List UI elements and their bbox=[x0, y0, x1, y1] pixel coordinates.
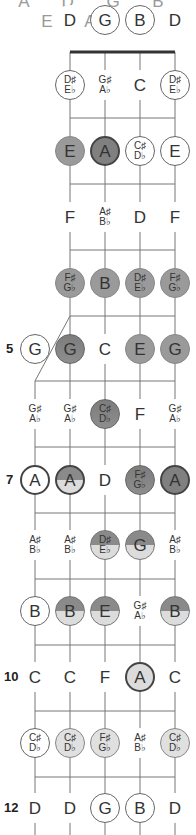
fret-6-note: F bbox=[125, 399, 155, 429]
fret-4-note: D♯E♭ bbox=[125, 268, 155, 298]
fret-10-note: C bbox=[20, 662, 50, 692]
fret-4-note: F♯G♭ bbox=[160, 268, 190, 298]
note-label: A bbox=[99, 143, 110, 160]
note-label: A bbox=[64, 472, 75, 489]
note-label: D bbox=[99, 472, 111, 489]
fret-1-note: D♯E♭ bbox=[55, 70, 85, 100]
note-label: D bbox=[169, 800, 181, 817]
fret-5-note: G bbox=[55, 334, 85, 364]
fret-8-note: D♯E♭ bbox=[90, 530, 120, 560]
fret-9-note: B bbox=[55, 596, 85, 626]
note-label: E bbox=[134, 341, 145, 358]
open-string-note: G bbox=[90, 5, 120, 35]
fret-1-note: C bbox=[125, 70, 155, 100]
fret-7-note: A bbox=[160, 465, 190, 495]
fret-7-note: A bbox=[55, 465, 85, 495]
note-label: B bbox=[64, 603, 75, 620]
note-label: A bbox=[29, 472, 40, 489]
note-label: A♭ bbox=[134, 611, 146, 621]
open-string-note: D bbox=[160, 5, 190, 35]
fret-8-note: A♯B♭ bbox=[55, 530, 85, 560]
note-label: A♭ bbox=[169, 414, 181, 424]
fret-2-note: E bbox=[160, 136, 190, 166]
fret-7-note: A bbox=[20, 465, 50, 495]
fret-4-note: B bbox=[90, 268, 120, 298]
fret-10-note: C bbox=[55, 662, 85, 692]
note-label: G bbox=[98, 12, 111, 29]
note-label: B♭ bbox=[29, 545, 41, 555]
note-label: G bbox=[63, 341, 76, 358]
note-label: E bbox=[99, 603, 110, 620]
note-label: E♭ bbox=[64, 85, 76, 95]
note-label: G bbox=[168, 341, 181, 358]
note-label: B bbox=[134, 12, 145, 29]
fret-2-note: A bbox=[90, 136, 120, 166]
note-label: D bbox=[64, 12, 76, 29]
note-label: A bbox=[134, 669, 145, 686]
note-label: D bbox=[64, 800, 76, 817]
fret-12-note: B bbox=[125, 793, 155, 823]
fret-9-note: E bbox=[90, 596, 120, 626]
note-label: G♭ bbox=[169, 283, 182, 293]
note-label: A♭ bbox=[99, 85, 111, 95]
note-label: D bbox=[29, 800, 41, 817]
fret-3-note: A♯B♭ bbox=[90, 202, 120, 232]
fret-11-note: C♯D♭ bbox=[160, 728, 190, 758]
fret-11-note: F♯G♭ bbox=[90, 728, 120, 758]
fret-8-note: A♯B♭ bbox=[20, 530, 50, 560]
open-string-note: D bbox=[55, 5, 85, 35]
note-label: B♭ bbox=[134, 743, 146, 753]
fret-9-note: G♯A♭ bbox=[125, 596, 155, 626]
note-label: B♭ bbox=[99, 217, 111, 227]
note-label: D♭ bbox=[169, 743, 181, 753]
fret-11-note: C♯D♭ bbox=[55, 728, 85, 758]
fret-10-note: A bbox=[125, 662, 155, 692]
note-label: G♭ bbox=[99, 743, 112, 753]
fret-6-note: G♯A♭ bbox=[55, 399, 85, 429]
fret-2-note: C♯D♭ bbox=[125, 136, 155, 166]
note-label: E bbox=[64, 143, 75, 160]
fret-10-note: C bbox=[160, 662, 190, 692]
fret-6-note: G♯A♭ bbox=[20, 399, 50, 429]
note-label: F bbox=[170, 209, 180, 226]
fret-1-note: G♯A♭ bbox=[90, 70, 120, 100]
fret-3-note: F bbox=[160, 202, 190, 232]
note-label: E♭ bbox=[99, 545, 111, 555]
fret-6-note: C♯D♭ bbox=[90, 399, 120, 429]
fret-2-note: E bbox=[55, 136, 85, 166]
fret-number-label: 10 bbox=[4, 669, 18, 684]
note-label: C bbox=[64, 669, 76, 686]
fret-11-note: C♯D♭ bbox=[20, 728, 50, 758]
note-label: D bbox=[134, 209, 146, 226]
note-label: E bbox=[169, 143, 180, 160]
note-label: A♭ bbox=[29, 414, 41, 424]
fret-1-note: D♯E♭ bbox=[160, 70, 190, 100]
note-label: C bbox=[99, 341, 111, 358]
note-label: A bbox=[169, 472, 180, 489]
note-label: G♭ bbox=[134, 480, 147, 490]
note-label: G♭ bbox=[64, 283, 77, 293]
fret-9-note: B bbox=[20, 596, 50, 626]
note-label: A♭ bbox=[64, 414, 76, 424]
note-label: B bbox=[134, 800, 145, 817]
fret-11-note: A♯B♭ bbox=[125, 728, 155, 758]
fret-12-note: D bbox=[160, 793, 190, 823]
fret-8-note: G bbox=[125, 530, 155, 560]
fret-number-label: 7 bbox=[6, 472, 13, 487]
fret-number-label: 12 bbox=[4, 800, 18, 815]
note-label: F bbox=[100, 669, 110, 686]
fret-6-note: G♯A♭ bbox=[160, 399, 190, 429]
note-label: G bbox=[133, 537, 146, 554]
fret-5-note: C bbox=[90, 334, 120, 364]
note-label: D bbox=[169, 12, 181, 29]
fret-number-label: 5 bbox=[6, 341, 13, 356]
open-string-note: B bbox=[125, 5, 155, 35]
fret-7-note: F♯G♭ bbox=[125, 465, 155, 495]
fret-4-note: F♯G♭ bbox=[55, 268, 85, 298]
fret-9-note: B bbox=[160, 596, 190, 626]
fret-12-note: D bbox=[55, 793, 85, 823]
note-label: B bbox=[169, 603, 180, 620]
fret-12-note: D bbox=[20, 793, 50, 823]
fret-7-note: D bbox=[90, 465, 120, 495]
note-label: E♭ bbox=[169, 85, 181, 95]
